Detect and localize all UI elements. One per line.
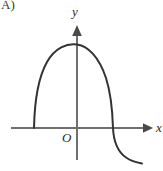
y-axis-label: y [72, 5, 78, 18]
graph-figure-panel: A) y x O [0, 0, 163, 171]
x-axis-arrowhead-icon [143, 123, 153, 133]
parabola-curve [34, 44, 142, 163]
choice-label: A) [1, 0, 15, 11]
coordinate-plane-graphic [0, 0, 163, 171]
y-axis-arrowhead-icon [72, 25, 82, 36]
x-axis-label: x [156, 121, 162, 134]
origin-label: O [62, 131, 71, 144]
